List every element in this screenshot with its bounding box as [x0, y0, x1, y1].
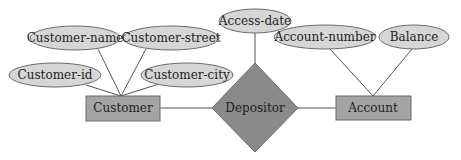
entity-customer: Customer — [86, 96, 160, 121]
entity-account: Account — [336, 96, 411, 120]
attribute-balance: Balance — [379, 25, 449, 49]
relationship-label: Depositor — [225, 101, 285, 115]
edge-balance — [373, 49, 412, 96]
attribute-customer-street: Customer-street — [121, 26, 220, 50]
attribute-label: Balance — [390, 30, 439, 44]
attribute-account-number: Account-number — [273, 25, 376, 49]
attribute-label: Customer-street — [121, 31, 220, 45]
attribute-label: Customer-id — [18, 68, 93, 82]
edge-customer-name — [98, 49, 121, 96]
attribute-label: Access-date — [218, 14, 291, 28]
attribute-label: Account-number — [273, 30, 375, 44]
attribute-label: Customer-city — [144, 68, 230, 82]
entity-label: Account — [347, 101, 398, 115]
attribute-customer-id: Customer-id — [9, 63, 101, 87]
attribute-customer-city: Customer-city — [141, 63, 233, 87]
attribute-customer-name: Customer-name — [27, 26, 124, 50]
edge-customer-id — [86, 85, 121, 96]
er-diagram: Customer-name Customer-street Customer-i… — [0, 0, 461, 160]
entity-label: Customer — [93, 101, 153, 115]
attribute-label: Customer-name — [27, 31, 124, 45]
edge-account-number — [330, 49, 373, 96]
er-diagram-canvas: Customer-name Customer-street Customer-i… — [0, 0, 461, 160]
